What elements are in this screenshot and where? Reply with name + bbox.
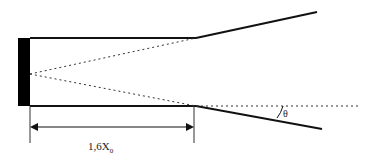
arrowhead-right (186, 123, 194, 131)
top-diverging-line (196, 12, 317, 38)
bottom-dotted-cone (30, 74, 196, 106)
arrowhead-left (30, 123, 38, 131)
bottom-diverging-line (196, 106, 322, 129)
dimension-subscript: 0 (110, 147, 114, 155)
top-dotted-cone (30, 38, 196, 74)
dimension-text: 1,6X (88, 140, 110, 152)
nozzle-diagram (0, 0, 375, 163)
dimension-label: 1,6X0 (88, 140, 113, 155)
angle-label: θ (283, 108, 288, 119)
nozzle-wall-block (18, 38, 30, 106)
